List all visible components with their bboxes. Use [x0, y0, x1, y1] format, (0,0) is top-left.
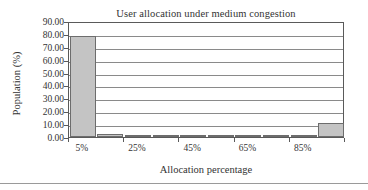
x-tick-label: 5%: [75, 143, 88, 154]
x-tick-label: 65%: [239, 143, 256, 154]
y-tick-mark: [64, 86, 68, 87]
y-tick-label: 0.00: [18, 133, 64, 143]
x-tick-label: 25%: [128, 143, 145, 154]
bar: [235, 135, 261, 137]
y-tick-label: 10.00: [18, 120, 64, 130]
bar: [263, 135, 289, 137]
plot-area: [68, 22, 344, 138]
y-tick-label: 90.00: [18, 17, 64, 27]
bar: [70, 36, 96, 137]
y-tick-mark: [64, 112, 68, 113]
chart-figure: User allocation under medium congestion …: [0, 0, 368, 190]
x-tick-mark: [234, 138, 235, 142]
y-tick-mark: [64, 35, 68, 36]
y-tick-mark: [64, 74, 68, 75]
bar: [153, 135, 179, 137]
x-axis-title: Allocation percentage: [68, 164, 344, 175]
y-tick-mark: [64, 22, 68, 23]
bar: [97, 134, 123, 137]
bottom-divider: [0, 183, 368, 184]
x-tick-mark: [289, 138, 290, 142]
chart-title: User allocation under medium congestion: [68, 8, 344, 19]
y-tick-mark: [64, 99, 68, 100]
y-tick-label: 70.00: [18, 43, 64, 53]
y-tick-label: 20.00: [18, 107, 64, 117]
bar: [180, 135, 206, 137]
bar: [125, 135, 151, 137]
x-tick-mark: [178, 138, 179, 142]
x-tick-label: 85%: [294, 143, 311, 154]
y-tick-label: 60.00: [18, 56, 64, 66]
bar: [291, 135, 317, 137]
y-tick-label: 30.00: [18, 94, 64, 104]
x-tick-mark: [344, 138, 345, 142]
y-tick-mark: [64, 61, 68, 62]
y-tick-label: 80.00: [18, 30, 64, 40]
y-tick-mark: [64, 125, 68, 126]
bar-series: [69, 23, 343, 137]
y-tick-mark: [64, 48, 68, 49]
x-tick-mark: [68, 138, 69, 142]
bar: [318, 123, 344, 137]
x-tick-mark: [123, 138, 124, 142]
x-tick-label: 45%: [183, 143, 200, 154]
y-tick-label: 50.00: [18, 69, 64, 79]
bar: [208, 135, 234, 137]
y-tick-label: 40.00: [18, 81, 64, 91]
